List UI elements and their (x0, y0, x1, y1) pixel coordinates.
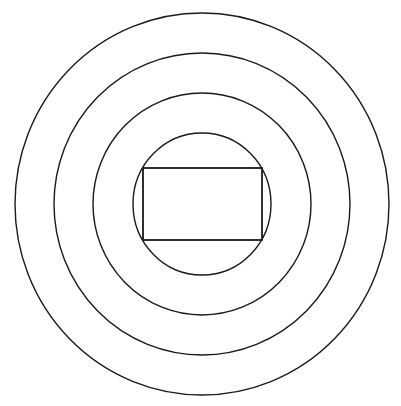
inscribed-rectangle (143, 168, 262, 240)
circle-2 (93, 93, 311, 315)
concentric-circles-diagram (0, 0, 401, 406)
concentric-rings (15, 13, 389, 395)
circle-4 (15, 13, 389, 395)
circle-1 (133, 133, 271, 275)
circle-3 (54, 53, 350, 355)
